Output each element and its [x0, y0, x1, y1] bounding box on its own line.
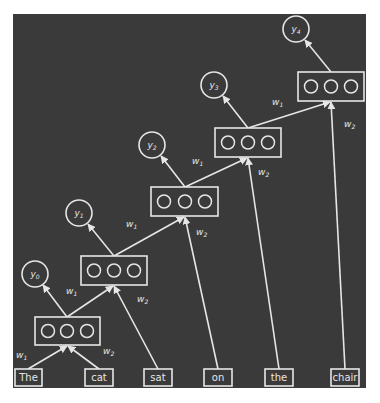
- output-y4: y4: [283, 16, 309, 42]
- word-sat: sat: [144, 369, 172, 386]
- word-chair: chair: [331, 369, 359, 386]
- svg-text:The: The: [18, 372, 38, 383]
- output-y3: y3: [201, 72, 227, 98]
- hidden-node-h0: [35, 317, 100, 345]
- svg-text:cat: cat: [91, 372, 107, 383]
- hidden-node-h2: [151, 187, 218, 216]
- word-the2: the: [265, 369, 293, 386]
- svg-text:chair: chair: [333, 372, 359, 383]
- hidden-node-h1: [81, 256, 147, 285]
- word-cat: cat: [85, 369, 113, 386]
- output-y2: y2: [139, 132, 165, 158]
- output-y0: y0: [22, 261, 48, 287]
- rnn-diagram: y0 y1 y2 y3 y4 w1 w2 w1 w2 w1 w2 w1 w2 w…: [0, 0, 380, 403]
- svg-text:on: on: [212, 372, 224, 383]
- hidden-node-h3: [215, 128, 281, 157]
- hidden-node-h4: [298, 72, 364, 101]
- word-on: on: [204, 369, 232, 386]
- svg-text:sat: sat: [150, 372, 165, 383]
- output-y1: y1: [66, 200, 92, 226]
- svg-text:the: the: [271, 372, 287, 383]
- word-the: The: [15, 369, 42, 386]
